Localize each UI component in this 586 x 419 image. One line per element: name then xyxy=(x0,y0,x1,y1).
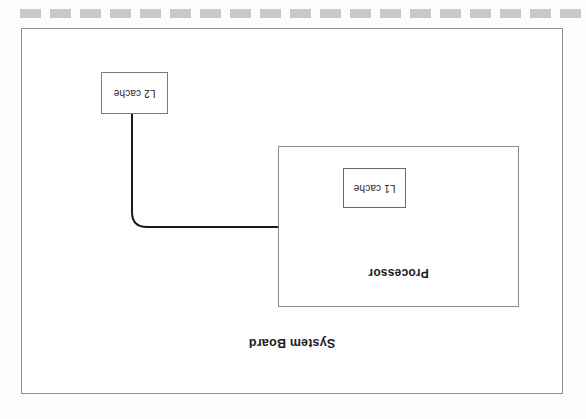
perforation-dash xyxy=(200,9,221,18)
perforation-dash xyxy=(530,9,551,18)
perforation-dash xyxy=(20,9,41,18)
perforation-dash xyxy=(80,9,101,18)
perforation-dash xyxy=(470,9,491,18)
perforation-dash xyxy=(110,9,131,18)
perforation-dash xyxy=(560,9,581,18)
perforation-dash xyxy=(320,9,341,18)
perforation-dash xyxy=(500,9,521,18)
perforation-dash xyxy=(140,9,161,18)
perforation-dash xyxy=(50,9,71,18)
perforation-dash xyxy=(230,9,251,18)
l1-cache-label: L1 cache xyxy=(344,169,405,207)
system-board-label: System Board xyxy=(22,336,562,349)
l2-cache-box: L2 cache xyxy=(101,72,168,114)
processor-box: L1 cache Processor xyxy=(278,146,519,307)
perforation-dash xyxy=(290,9,311,18)
perforation-dash xyxy=(380,9,401,18)
l2-cache-label: L2 cache xyxy=(102,73,167,113)
scanned-diagram-page: L2 cache L1 cache Processor System Board xyxy=(0,0,586,419)
l1-cache-box: L1 cache xyxy=(343,168,406,208)
processor-label: Processor xyxy=(279,267,518,279)
perforation-dash xyxy=(440,9,461,18)
perforation-dash xyxy=(170,9,191,18)
perforation-dash xyxy=(410,9,431,18)
perforation-dash xyxy=(350,9,371,18)
dashed-perforation-strip xyxy=(20,9,582,18)
system-board-box: L2 cache L1 cache Processor System Board xyxy=(21,28,563,394)
perforation-dash xyxy=(260,9,281,18)
